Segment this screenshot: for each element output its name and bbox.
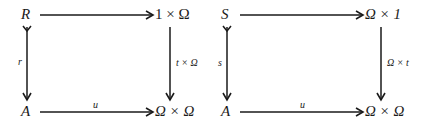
label-s: s: [218, 58, 222, 68]
node-omega-times-omega-left: Ω × Ω: [155, 104, 194, 119]
node-S: S: [221, 7, 229, 22]
node-omega-times-1: Ω × 1: [365, 7, 401, 22]
label-r: r: [18, 57, 22, 67]
label-u-left: u: [93, 100, 98, 110]
node-1-times-omega: 1 × Ω: [155, 7, 190, 22]
label-t-times-omega: t × Ω: [176, 58, 198, 68]
node-R: R: [21, 7, 30, 22]
label-u-right: u: [300, 100, 305, 110]
node-A-right: A: [221, 104, 230, 119]
node-omega-times-omega-right: Ω × Ω: [365, 104, 404, 119]
label-omega-times-t: Ω × t: [387, 58, 409, 68]
node-A-left: A: [21, 104, 30, 119]
